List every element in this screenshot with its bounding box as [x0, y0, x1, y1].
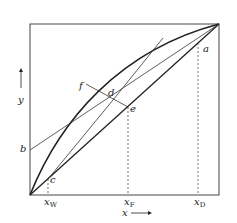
xW-label: xW — [44, 196, 58, 209]
stripping-line-extension — [113, 38, 163, 100]
point-d-label: d — [108, 87, 114, 98]
diagonal-line — [30, 24, 219, 195]
q-line — [86, 84, 128, 107]
y-arrowhead-icon — [19, 68, 23, 72]
xy-diagram: a b c d e f xW xF xD x y — [0, 0, 237, 223]
xD-label: xD — [194, 196, 206, 209]
point-b-label: b — [20, 143, 26, 154]
x-arrowhead-icon — [148, 211, 152, 215]
stripping-operating-line — [48, 100, 113, 179]
point-e-label: e — [130, 103, 136, 114]
point-a-label: a — [203, 43, 209, 54]
x-axis-label: x — [122, 207, 128, 218]
y-axis-label: y — [17, 94, 24, 105]
point-f-label: f — [78, 80, 85, 91]
rectifying-operating-line — [30, 24, 219, 150]
point-c-label: c — [50, 174, 56, 185]
